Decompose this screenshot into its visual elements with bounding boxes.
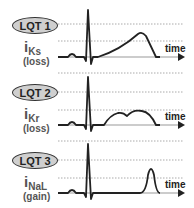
lqt-badge: LQT 1 (12, 17, 58, 34)
time-axis-label: time (165, 179, 186, 190)
current-label: iKr (24, 106, 39, 124)
axis-arrows (178, 53, 185, 197)
time-axis-label: time (165, 43, 186, 54)
lqt-badge: LQT 3 (12, 152, 58, 169)
current-label: iKs (24, 39, 41, 57)
time-axis-label: time (165, 111, 186, 122)
effect-label: (loss) (23, 56, 50, 67)
traces (58, 10, 160, 199)
effect-label: (gain) (23, 191, 50, 202)
lqt-badge: LQT 2 (12, 84, 58, 101)
effect-label: (loss) (23, 123, 50, 134)
current-label: iNaL (24, 174, 47, 192)
